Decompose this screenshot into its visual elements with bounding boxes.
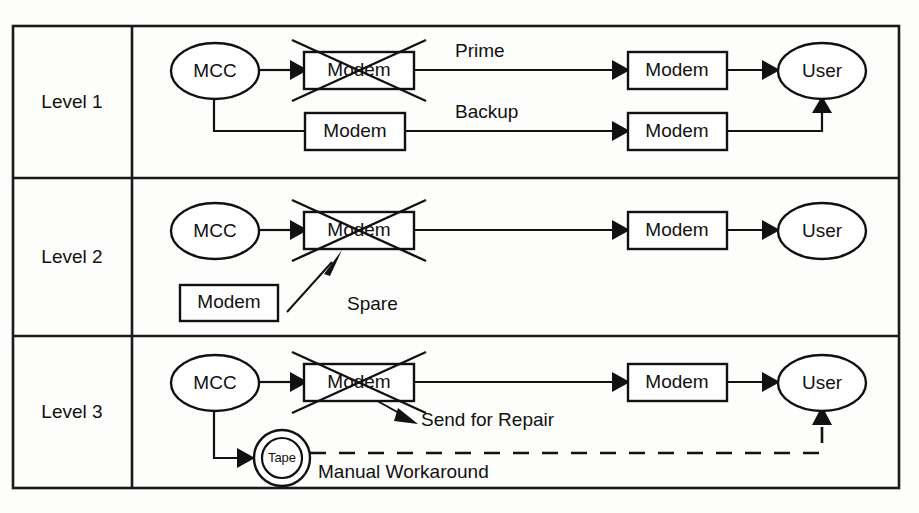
node-modem-failed-2[interactable]: Modem bbox=[292, 200, 426, 261]
node-user-2[interactable]: User bbox=[778, 203, 866, 259]
row-label-level-1: Level 1 bbox=[41, 91, 102, 112]
edge-backup-path-1 bbox=[405, 121, 630, 141]
edge-far-modem-to-user-2 bbox=[727, 220, 780, 240]
edge-far-prime-to-user-1 bbox=[727, 60, 780, 80]
edge-far-modem-to-user-3 bbox=[727, 372, 780, 392]
node-label-tape-3: Tape bbox=[268, 450, 296, 465]
level-3-group: MCC Modem Tape Modem bbox=[171, 352, 866, 486]
node-modem-spare-2[interactable]: Modem bbox=[180, 285, 278, 321]
edge-far-backup-to-user-1 bbox=[727, 96, 832, 131]
arrowhead-icon bbox=[237, 448, 255, 468]
arrowhead-icon bbox=[394, 408, 418, 424]
edge-failed-modem-to-far-modem-2 bbox=[414, 220, 630, 240]
row-label-level-2: Level 2 bbox=[41, 246, 102, 267]
node-user-1[interactable]: User bbox=[778, 43, 866, 99]
restoration-levels-diagram: Level 1 Level 2 Level 3 bbox=[0, 0, 919, 513]
node-label-modem-backup-1: Modem bbox=[323, 120, 386, 141]
node-label-user-3: User bbox=[802, 372, 843, 393]
node-label-mcc-3: MCC bbox=[193, 372, 236, 393]
edge-mcc-to-failed-modem-2 bbox=[258, 220, 308, 240]
edge-mcc-to-failed-modem-1 bbox=[258, 60, 308, 80]
node-label-mcc-1: MCC bbox=[193, 60, 236, 81]
node-mcc-1[interactable]: MCC bbox=[171, 43, 259, 99]
edge-label-spare: Spare bbox=[347, 293, 398, 314]
node-modem-backup-1[interactable]: Modem bbox=[305, 113, 405, 150]
node-modem-prime-failed-1[interactable]: Modem bbox=[292, 40, 426, 101]
node-label-user-1: User bbox=[802, 60, 843, 81]
diagram-canvas: Level 1 Level 2 Level 3 bbox=[0, 0, 919, 513]
edge-prime-path-1 bbox=[414, 60, 630, 80]
node-modem-far-3[interactable]: Modem bbox=[628, 364, 727, 401]
arrowhead-icon bbox=[324, 250, 342, 276]
node-label-modem-far-prime-1: Modem bbox=[645, 59, 708, 80]
edge-label-send-for-repair: Send for Repair bbox=[421, 409, 555, 430]
node-label-modem-far-backup-1: Modem bbox=[645, 120, 708, 141]
edge-label-manual-workaround: Manual Workaround bbox=[318, 461, 489, 482]
edge-mcc-to-tape-3 bbox=[214, 410, 255, 468]
node-modem-far-2[interactable]: Modem bbox=[628, 212, 727, 249]
edge-label-prime: Prime bbox=[455, 40, 505, 61]
row-label-level-3: Level 3 bbox=[41, 401, 102, 422]
node-label-modem-spare-2: Modem bbox=[197, 291, 260, 312]
node-label-modem-far-3: Modem bbox=[645, 371, 708, 392]
node-tape-3[interactable]: Tape bbox=[254, 430, 310, 486]
edge-failed-modem-to-far-modem-3 bbox=[414, 372, 630, 392]
edge-mcc-to-backup-modem-1 bbox=[214, 99, 305, 131]
node-label-user-2: User bbox=[802, 220, 843, 241]
edge-mcc-to-failed-modem-3 bbox=[258, 372, 308, 392]
node-modem-far-prime-1[interactable]: Modem bbox=[628, 52, 727, 89]
node-mcc-2[interactable]: MCC bbox=[171, 203, 259, 259]
node-label-mcc-2: MCC bbox=[193, 220, 236, 241]
node-modem-far-backup-1[interactable]: Modem bbox=[628, 113, 727, 150]
edge-label-backup: Backup bbox=[455, 101, 518, 122]
edge-manual-workaround-3 bbox=[310, 406, 832, 453]
node-mcc-3[interactable]: MCC bbox=[171, 355, 259, 411]
node-user-3[interactable]: User bbox=[778, 355, 866, 411]
node-modem-failed-3[interactable]: Modem bbox=[292, 352, 426, 413]
node-label-modem-far-2: Modem bbox=[645, 219, 708, 240]
level-2-group: MCC Modem Modem Modem bbox=[171, 200, 866, 321]
level-1-group: MCC Modem Modem Modem bbox=[171, 40, 866, 150]
